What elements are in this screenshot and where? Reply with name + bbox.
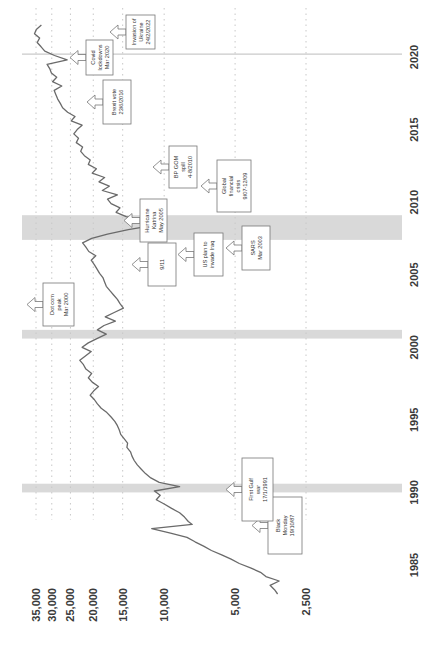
callout-arrow-icon — [27, 298, 43, 312]
year-tick-label: 2000 — [408, 335, 420, 359]
value-tick-label: 20,000 — [87, 588, 99, 622]
callout-text: US plan toinvade Iraq — [202, 241, 215, 269]
annotation-nine-eleven: 9/11 — [132, 243, 176, 286]
value-axis-labels: 2,5005,00010,00015,00020,00025,00030,000… — [30, 588, 312, 622]
callout-arrow-icon — [226, 241, 242, 255]
callout-text: 9/11 — [159, 259, 165, 269]
annotation-brexit-vote: Brexit vote23/6/2016 — [87, 80, 131, 124]
callout-text: HurricaneKatrinaMay 2005 — [144, 208, 164, 233]
callout-arrow-icon — [70, 51, 86, 65]
annotation-ukraine: Invasion ofUkraine24/2/2022 — [110, 15, 155, 49]
value-tick-label: 10,000 — [158, 588, 170, 622]
annotation-dot-com-peak: Dot compeakMar 2000 — [27, 283, 74, 326]
callout-arrow-icon — [87, 95, 103, 109]
callout-arrow-icon — [178, 248, 194, 262]
value-tick-label: 25,000 — [64, 588, 76, 622]
value-tick-label: 15,000 — [117, 588, 129, 622]
year-tick-label: 2010 — [408, 190, 420, 214]
annotation-first-gulf-war: First Gulfwar17/1/1991 — [226, 458, 273, 521]
value-tick-label: 2,500 — [300, 588, 312, 616]
value-tick-label: 35,000 — [30, 588, 42, 622]
callout-arrow-icon — [201, 179, 217, 193]
annotation-bp-gom: BP GOMspill4-8/2010 — [153, 146, 197, 188]
year-axis-labels: 19851990199520002005201020152020 — [408, 45, 420, 577]
rotated-line-chart: BlackMonday19/10/87First Gulfwar17/1/199… — [0, 0, 438, 656]
year-tick-label: 1995 — [408, 408, 420, 432]
annotation-covid: CovidlockdownsMar 2020 — [70, 40, 113, 75]
year-tick-label: 2015 — [408, 117, 420, 141]
callout-arrow-icon — [110, 25, 126, 39]
year-tick-label: 2020 — [408, 45, 420, 69]
event-annotations: BlackMonday19/10/87First Gulfwar17/1/199… — [27, 15, 302, 554]
year-tick-label: 1985 — [408, 553, 420, 577]
value-tick-label: 5,000 — [229, 588, 241, 616]
shaded-period — [22, 484, 402, 493]
shaded-period — [22, 330, 402, 339]
callout-arrow-icon — [153, 160, 169, 174]
callout-arrow-icon — [132, 258, 148, 272]
callout-text: Brexit vote23/6/2016 — [111, 89, 124, 115]
year-tick-label: 2005 — [408, 262, 420, 286]
year-tick-label: 1990 — [408, 480, 420, 504]
value-tick-label: 30,000 — [46, 588, 58, 622]
annotation-gfc: Globalfinancialcrisis9/07-12/09 — [201, 160, 251, 212]
